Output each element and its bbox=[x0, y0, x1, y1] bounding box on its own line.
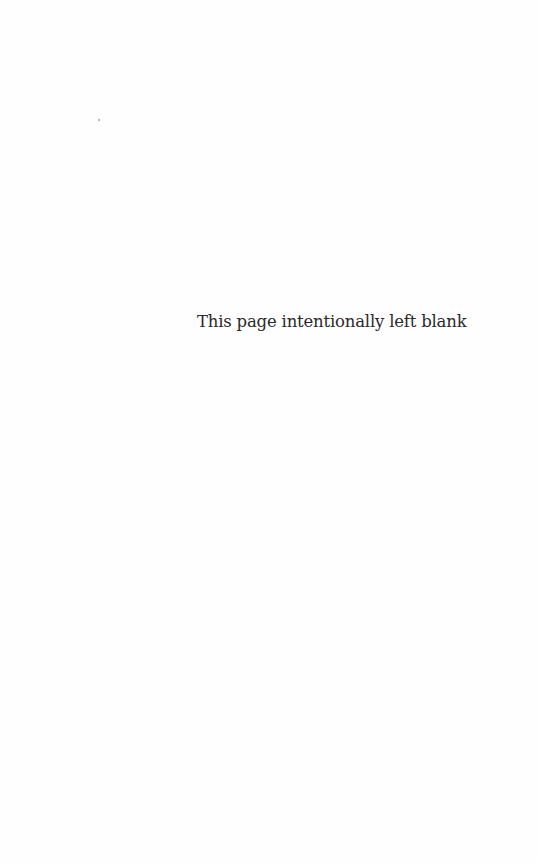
blank-page-notice: This page intentionally left blank bbox=[197, 312, 437, 331]
blank-page: This page intentionally left blank bbox=[0, 0, 537, 863]
scan-speck bbox=[98, 119, 100, 121]
